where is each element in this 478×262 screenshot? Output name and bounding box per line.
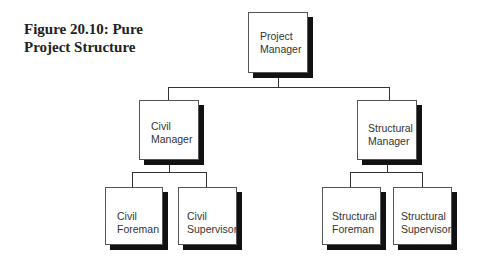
label-line: Structural: [332, 210, 377, 223]
connector-managers-bar: [168, 87, 389, 88]
structural-supervisor-box: Structural Supervisor: [393, 187, 452, 245]
civil-manager-label: Civil Manager: [151, 120, 192, 146]
label-line: Manager: [368, 135, 413, 148]
structural-foreman-label: Structural Foreman: [332, 210, 377, 236]
connector-civil-stem: [169, 160, 170, 172]
connector-structural-supervisor-drop: [422, 172, 423, 187]
label-line: Manager: [151, 133, 192, 146]
label-line: Structural: [401, 210, 451, 223]
figure-title: Figure 20.10: Pure Project Structure: [24, 20, 143, 56]
structural-manager-label: Structural Manager: [368, 122, 413, 148]
civil-foreman-box: Civil Foreman: [105, 187, 163, 245]
connector-structural-stem: [387, 160, 388, 172]
label-line: Civil: [151, 120, 192, 133]
label-line: Civil: [187, 210, 237, 223]
connector-root-stem: [278, 73, 279, 87]
label-line: Civil: [117, 210, 159, 223]
label-line: Foreman: [117, 223, 159, 236]
civil-foreman-label: Civil Foreman: [117, 210, 159, 236]
connector-structural-foreman-drop: [350, 172, 351, 187]
figure-title-line2: Project Structure: [24, 38, 143, 56]
connector-civil-foreman-drop: [132, 172, 133, 187]
figure-title-line1: Figure 20.10: Pure: [24, 20, 143, 38]
structural-manager-box: Structural Manager: [357, 100, 417, 160]
connector-structural-manager-drop: [389, 87, 390, 100]
label-line: Structural: [368, 122, 413, 135]
structural-supervisor-label: Structural Supervisor: [401, 210, 451, 236]
civil-manager-box: Civil Manager: [139, 100, 199, 160]
label-line: Foreman: [332, 223, 377, 236]
label-line: Manager: [260, 43, 301, 56]
civil-supervisor-label: Civil Supervisor: [187, 210, 237, 236]
structural-foreman-box: Structural Foreman: [322, 187, 381, 245]
connector-structural-bar: [350, 172, 423, 173]
connector-civil-manager-drop: [168, 87, 169, 100]
connector-civil-supervisor-drop: [206, 172, 207, 187]
civil-supervisor-box: Civil Supervisor: [178, 187, 237, 245]
connector-civil-bar: [132, 172, 207, 173]
project-manager-label: Project Manager: [260, 30, 301, 56]
label-line: Supervisor: [401, 223, 451, 236]
label-line: Project: [260, 30, 301, 43]
label-line: Supervisor: [187, 223, 237, 236]
project-manager-box: Project Manager: [248, 12, 308, 73]
